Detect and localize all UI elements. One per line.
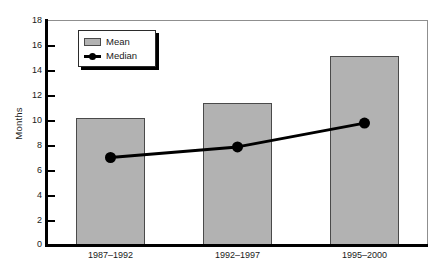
legend-label-median: Median bbox=[106, 51, 137, 61]
legend-item-median: Median bbox=[84, 49, 155, 63]
legend-swatch-icon bbox=[84, 38, 101, 46]
x-tick-label-2: 1992–1997 bbox=[183, 250, 293, 261]
legend-line-marker-icon bbox=[84, 52, 101, 60]
x-tick-label-3: 1995–2000 bbox=[310, 250, 420, 261]
legend-label-mean: Mean bbox=[106, 37, 130, 47]
chart-legend: Mean Median bbox=[78, 30, 156, 67]
x-axis-line bbox=[45, 244, 428, 247]
median-line-series bbox=[0, 0, 443, 280]
chart-container: Months 18 16 14 12 10 8 6 4 2 0 1987–199… bbox=[0, 0, 443, 280]
median-marker-1 bbox=[105, 152, 116, 163]
legend-item-mean: Mean bbox=[84, 35, 155, 49]
median-marker-2 bbox=[232, 141, 243, 152]
median-marker-3 bbox=[359, 118, 370, 129]
y-axis-line bbox=[45, 19, 48, 247]
x-tick-label-1: 1987–1992 bbox=[56, 250, 166, 261]
